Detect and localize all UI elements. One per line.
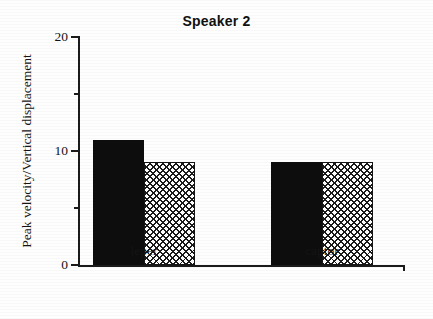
x-axis-end-tick — [403, 265, 405, 271]
y-axis-title: Peak velocity/Vertical displacement — [19, 54, 35, 247]
y-tick-mark — [71, 150, 80, 152]
plot-area: 01020 — [78, 37, 405, 265]
y-tick-mark — [71, 264, 80, 266]
y-tick-mark — [74, 93, 80, 95]
chart-title: Speaker 2 — [0, 13, 433, 29]
bar-chart-figure: Speaker 2 Peak velocity/Vertical displac… — [0, 0, 433, 319]
y-tick-label: 10 — [55, 143, 69, 159]
x-axis-label-captor: captor — [241, 243, 403, 259]
y-tick-mark — [71, 36, 80, 38]
y-axis-title-container: Peak velocity/Vertical displacement — [18, 37, 36, 265]
y-tick-label: 0 — [61, 257, 68, 273]
y-tick-mark — [74, 207, 80, 209]
y-tick-label: 20 — [55, 29, 69, 45]
x-axis-line — [78, 265, 405, 267]
x-axis-label-leper: leper — [63, 243, 225, 259]
